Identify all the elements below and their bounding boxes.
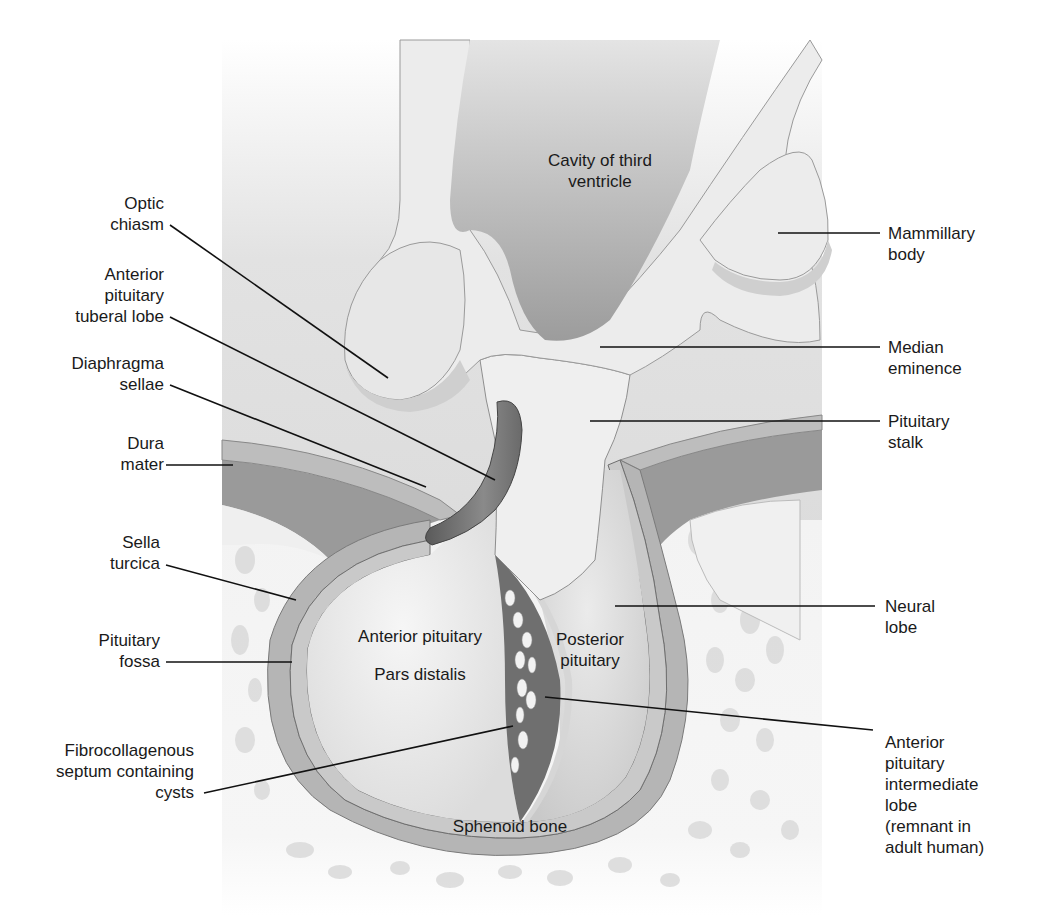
label-diaphragma-sellae: Diaphragma sellae bbox=[71, 353, 164, 395]
label-posterior-pituitary: Posterior pituitary bbox=[530, 629, 650, 671]
label-optic-chiasm: Optic chiasm bbox=[110, 193, 164, 235]
label-median-eminence: Median eminence bbox=[888, 337, 962, 379]
label-cavity-third-ventricle: Cavity of third ventricle bbox=[500, 150, 700, 192]
pituitary-diagram: Optic chiasm Anterior pituitary tuberal … bbox=[0, 0, 1040, 915]
label-anterior-pituitary: Anterior pituitary bbox=[320, 626, 520, 647]
label-pars-distalis: Pars distalis bbox=[320, 664, 520, 685]
label-sella-turcica: Sella turcica bbox=[110, 532, 160, 574]
label-mammillary-body: Mammillary body bbox=[888, 223, 975, 265]
label-sphenoid-bone: Sphenoid bone bbox=[410, 816, 610, 837]
label-pituitary-stalk: Pituitary stalk bbox=[888, 411, 949, 453]
label-pituitary-fossa: Pituitary fossa bbox=[99, 630, 160, 672]
label-fibrocollagenous-septum: Fibrocollagenous septum containing cysts bbox=[56, 740, 194, 803]
label-neural-lobe: Neural lobe bbox=[885, 596, 935, 638]
label-anterior-pituitary-tuberal-lobe: Anterior pituitary tuberal lobe bbox=[75, 264, 164, 327]
label-anterior-pituitary-intermediate-lobe: Anterior pituitary intermediate lobe (re… bbox=[885, 732, 984, 858]
label-dura-mater: Dura mater bbox=[121, 433, 164, 475]
